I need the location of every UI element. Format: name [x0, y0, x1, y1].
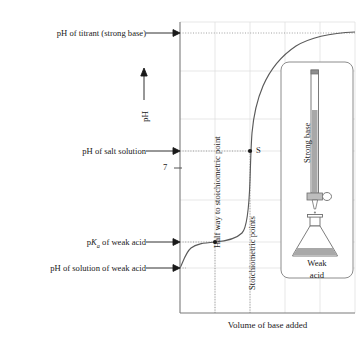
label-strong-base: Strong base: [302, 123, 312, 163]
label-halfway-to-stoichiometric-point: Half way to stoichiometric point: [212, 136, 222, 248]
burette-liquid: [312, 110, 318, 193]
arrowhead-weakacid: [173, 265, 180, 272]
pka-suffix: of weak acid: [100, 237, 146, 247]
y-tick-label-7: 7: [163, 163, 167, 172]
label-ph-of-salt-solution: pH of salt solution: [14, 147, 146, 156]
label-pka-of-weak-acid: pKa of weak acid: [14, 238, 146, 249]
label-weak-acid-line2: acid: [287, 270, 347, 280]
point-stoichiometric: [248, 149, 252, 153]
leader-lines: [146, 30, 180, 272]
label-weak-acid-line1: Weak: [287, 258, 347, 268]
titrant-drop: [314, 211, 316, 213]
arrowhead-titrant: [173, 30, 180, 37]
flask-liquid: [293, 248, 337, 255]
burette-cap: [311, 70, 319, 74]
burette-stopcock: [307, 193, 323, 200]
stopcock-handle-icon: [323, 193, 332, 201]
arrowhead-salt: [173, 148, 180, 155]
label-ph-of-titrant: pH of titrant (strong base): [14, 29, 146, 38]
flask-lip: [308, 215, 323, 218]
y-axis-arrow-icon: [141, 68, 147, 100]
label-stoichiometric-points: Stoichiometric points: [247, 216, 257, 290]
label-ph-of-solution-of-weak-acid: pH of solution of weak acid: [2, 264, 146, 273]
x-axis-label: Volume of base added: [180, 321, 355, 330]
point-label-s: S: [256, 146, 261, 155]
arrowhead-pka: [173, 239, 180, 246]
apparatus-inset: [281, 62, 353, 278]
y-axis-label: pH: [140, 111, 150, 122]
titration-figure: [0, 0, 357, 339]
